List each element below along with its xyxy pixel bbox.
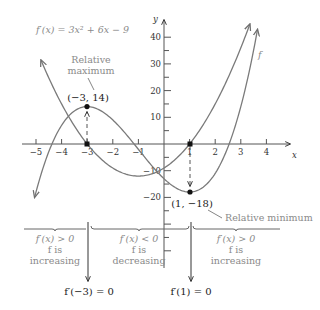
- interval-1-line3: increasing: [30, 255, 80, 266]
- x-ticks: −5−4−3−2−11234: [30, 139, 269, 157]
- interval-1-condition: f′(x) > 0: [35, 233, 75, 244]
- rel-min-leader: [208, 210, 222, 218]
- rel-max-point-label: (−3, 14): [67, 92, 109, 103]
- y-axis-label: y: [152, 14, 158, 24]
- y-tick-label: 20: [150, 86, 161, 96]
- y-ticks: 40302010−10−20: [143, 32, 171, 251]
- interval-2-line3: decreasing: [113, 255, 166, 266]
- point-root-1: [188, 142, 193, 147]
- y-tick-label: 10: [150, 112, 161, 122]
- rel-min-label: Relative minimum: [225, 212, 313, 223]
- x-tick-label: 2: [212, 147, 217, 157]
- x-tick-label: 3: [238, 147, 243, 157]
- annotations: f′(x) = 3x² + 6x − 9 f Relative maximum …: [35, 24, 313, 223]
- interval-2-condition: f′(x) < 0: [119, 233, 159, 244]
- rel-min-point-label: (1, −18): [171, 198, 213, 209]
- rel-max-label-1: Relative: [71, 54, 111, 65]
- rel-max-label-2: maximum: [67, 65, 114, 76]
- derivative-label: f′(x) = 3x² + 6x − 9: [35, 24, 129, 35]
- critical-label-neg3: f′(−3) = 0: [64, 286, 114, 297]
- interval-3-line3: increasing: [211, 255, 261, 266]
- y-tick-label: −20: [143, 192, 161, 202]
- x-axis-label: x: [292, 150, 297, 160]
- x-tick-label: −4: [55, 147, 68, 157]
- point-rel-max: [84, 104, 89, 109]
- interval-2-line2: f is: [132, 244, 147, 255]
- axes: −5−4−3−2−11234 40302010−10−20 x y: [22, 14, 297, 268]
- rel-max-leader: [88, 78, 94, 90]
- brace-middle: [91, 226, 189, 231]
- point-rel-min: [187, 189, 192, 194]
- point-root-neg3: [85, 142, 90, 147]
- x-tick-label: −2: [107, 147, 120, 157]
- x-tick-label: −5: [30, 147, 43, 157]
- chart: −5−4−3−2−11234 40302010−10−20 x y f′(x) …: [0, 0, 320, 310]
- interval-3-condition: f′(x) > 0: [216, 233, 256, 244]
- brace-left: [24, 229, 86, 231]
- x-tick-label: 4: [264, 147, 269, 157]
- y-tick-label: 40: [150, 32, 161, 42]
- interval-1-line2: f is: [48, 244, 63, 255]
- interval-3-line2: f is: [229, 244, 244, 255]
- brace-right: [193, 226, 280, 231]
- f-label: f: [257, 49, 263, 60]
- interval-labels: f′(x) > 0 f is increasing f′(x) < 0 f is…: [30, 233, 261, 266]
- critical-label-1: f′(1) = 0: [170, 286, 211, 297]
- interval-braces: [24, 226, 280, 231]
- y-tick-label: 30: [150, 59, 161, 69]
